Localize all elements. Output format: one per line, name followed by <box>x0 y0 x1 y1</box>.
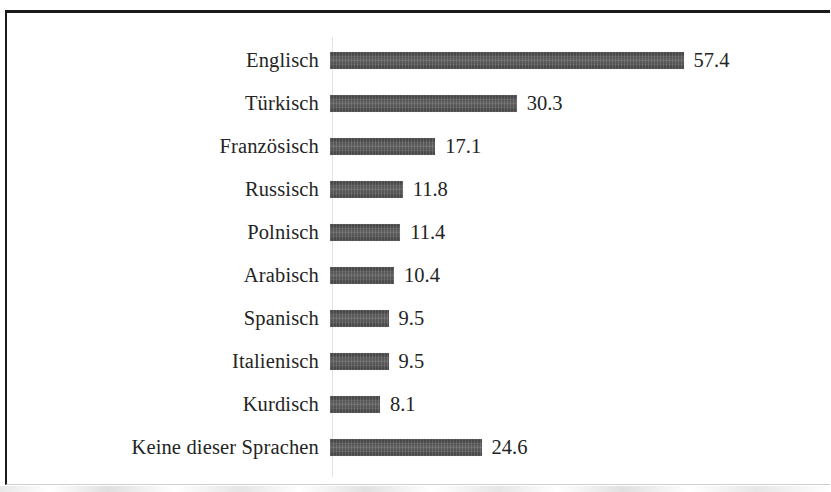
scan-noise-band <box>0 486 831 492</box>
bar-row: Englisch57.4 <box>7 39 831 82</box>
bar <box>330 95 517 112</box>
bar-value-label: 9.5 <box>389 308 425 329</box>
bar-value-label: 30.3 <box>517 93 563 114</box>
bar-value-label: 57.4 <box>684 50 730 71</box>
bar-track: 8.1 <box>330 383 831 426</box>
bar-category-label: Polnisch <box>7 222 330 243</box>
bar-row: Arabisch10.4 <box>7 254 831 297</box>
bar-track: 11.8 <box>330 168 831 211</box>
bar-value-label: 24.6 <box>482 437 528 458</box>
bar-row: Türkisch30.3 <box>7 82 831 125</box>
bar-track: 10.4 <box>330 254 831 297</box>
bar-value-label: 8.1 <box>380 394 416 415</box>
bar-category-label: Kurdisch <box>7 394 330 415</box>
bar-track: 17.1 <box>330 125 831 168</box>
bar-row: Spanisch9.5 <box>7 297 831 340</box>
bar-row: Keine dieser Sprachen24.6 <box>7 426 831 469</box>
bar-category-label: Arabisch <box>7 265 330 286</box>
bar-category-label: Spanisch <box>7 308 330 329</box>
bar-value-label: 9.5 <box>389 351 425 372</box>
bar-value-label: 11.8 <box>403 179 448 200</box>
bar-category-label: Türkisch <box>7 93 330 114</box>
bar <box>330 138 435 155</box>
bar-track: 11.4 <box>330 211 831 254</box>
bar <box>330 267 394 284</box>
bar <box>330 181 403 198</box>
bar-track: 30.3 <box>330 82 831 125</box>
bar <box>330 396 380 413</box>
bar <box>330 224 400 241</box>
bar <box>330 52 684 69</box>
bar-value-label: 10.4 <box>394 265 440 286</box>
bar-track: 9.5 <box>330 340 831 383</box>
figure-frame: Englisch57.4Türkisch30.3Französisch17.1R… <box>5 10 830 485</box>
bar-category-label: Italienisch <box>7 351 330 372</box>
bar-row: Polnisch11.4 <box>7 211 831 254</box>
bar-track: 24.6 <box>330 426 831 469</box>
bar-value-label: 17.1 <box>435 136 481 157</box>
bar-row: Italienisch9.5 <box>7 340 831 383</box>
bar-track: 57.4 <box>330 39 831 82</box>
bar-value-label: 11.4 <box>400 222 445 243</box>
bar-category-label: Englisch <box>7 50 330 71</box>
bar <box>330 310 389 327</box>
bar-row: Französisch17.1 <box>7 125 831 168</box>
bar-category-label: Französisch <box>7 136 330 157</box>
bar-row: Kurdisch8.1 <box>7 383 831 426</box>
bar-row: Russisch11.8 <box>7 168 831 211</box>
bar <box>330 353 389 370</box>
bar-category-label: Keine dieser Sprachen <box>7 437 330 458</box>
bar-chart: Englisch57.4Türkisch30.3Französisch17.1R… <box>7 13 831 488</box>
bar-track: 9.5 <box>330 297 831 340</box>
bar <box>330 439 482 456</box>
bar-category-label: Russisch <box>7 179 330 200</box>
